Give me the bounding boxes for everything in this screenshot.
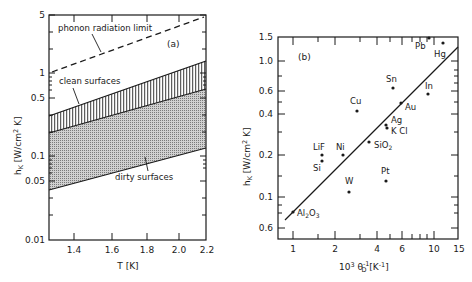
point-ni xyxy=(341,153,344,156)
y-axis-label-b: hK [W/cm2 K] xyxy=(241,128,254,186)
y-axis-label-a: hK [W/cm2 K] xyxy=(12,117,25,175)
panel-label-b: (b) xyxy=(298,52,311,62)
y-tick-label: 0.5 xyxy=(31,93,45,103)
panel-b: 1.5 1.0 0.6 0.4 0.2 0.1 0.6 1 2 4 6 10 1… xyxy=(241,32,465,274)
point-hg xyxy=(441,41,444,44)
panel-label-a: (a) xyxy=(167,39,180,49)
point-label-sio2: SiO2 xyxy=(374,140,392,151)
y-tick-label: 0.4 xyxy=(259,109,274,119)
point-label-al2o3: Al2O3 xyxy=(297,208,320,219)
x-tick-label: 15 xyxy=(453,244,464,254)
phonon-limit-annotation: phonon radiation limit xyxy=(58,23,153,33)
point-label-ni: Ni xyxy=(336,142,345,152)
x-axis-label-a: T [K] xyxy=(116,261,138,271)
y-tick-label: 1 xyxy=(39,68,45,78)
point-pb xyxy=(427,36,430,39)
point-label-ag: Ag xyxy=(391,115,402,125)
point-label-hg: Hg xyxy=(434,49,446,59)
point-label-sn: Sn xyxy=(386,74,397,84)
panel-a: 5 1 0.5 0.1 0.05 0.01 1.4 1.6 1.8 2.0 2.… xyxy=(12,10,214,271)
data-points xyxy=(291,36,444,213)
y-tick-label: 5 xyxy=(39,10,45,20)
y-tick-label: 0.2 xyxy=(259,150,273,160)
x-tick-label: 10 xyxy=(428,244,440,254)
point-pt xyxy=(384,179,387,182)
fit-line xyxy=(285,47,458,220)
x-tick-label: 6 xyxy=(399,244,405,254)
y-tick-label: 0.6 xyxy=(259,223,274,233)
point-label-pt: Pt xyxy=(381,166,390,176)
x-tick-label: 2 xyxy=(332,244,338,254)
x-tick-label: 1 xyxy=(290,244,296,254)
y-tick-label: 0.6 xyxy=(259,86,274,96)
y-tick-label: 0.1 xyxy=(31,151,45,161)
point-w xyxy=(347,190,350,193)
dirty-surfaces-annotation: dirty surfaces xyxy=(115,172,174,182)
x-tick-label: 1.6 xyxy=(105,245,120,255)
x-tick-label: 1.4 xyxy=(67,245,82,255)
point-in xyxy=(426,92,429,95)
point-label-cu: Cu xyxy=(350,96,361,106)
x-tick-label: 1.8 xyxy=(140,245,155,255)
clean-arrow xyxy=(73,88,79,104)
point-lif xyxy=(320,153,323,156)
phonon-arrow xyxy=(92,34,101,52)
point-label-si: Si xyxy=(313,163,321,173)
y-tick-label: 1.0 xyxy=(259,56,274,66)
x-tick-label: 2.2 xyxy=(200,245,214,255)
point-label-pb: Pb xyxy=(415,41,426,51)
point-cu xyxy=(355,109,358,112)
point-label-au: Au xyxy=(405,102,416,112)
point-label-in: In xyxy=(425,81,433,91)
x-axis-label-b: 103 θ-1D [K-1] xyxy=(339,260,389,274)
y-tick-label: 0.05 xyxy=(25,176,45,186)
figure: 5 1 0.5 0.1 0.05 0.01 1.4 1.6 1.8 2.0 2.… xyxy=(0,0,472,282)
x-tick-label: 4 xyxy=(374,244,380,254)
clean-surfaces-annotation: clean surfaces xyxy=(59,76,121,86)
point-label-kcl: K Cl xyxy=(391,126,408,136)
point-ag xyxy=(384,123,387,126)
point-label-w: W xyxy=(345,176,354,186)
y-tick-label: 1.5 xyxy=(259,32,273,42)
point-sn xyxy=(391,86,394,89)
y-tick-label: 0.1 xyxy=(259,192,273,202)
point-kcl xyxy=(385,126,388,129)
point-sio2 xyxy=(367,140,370,143)
x-tick-label: 2.0 xyxy=(172,245,187,255)
point-au xyxy=(399,101,402,104)
point-al2o3 xyxy=(291,210,294,213)
point-label-lif: LiF xyxy=(313,142,325,152)
point-si xyxy=(320,159,323,162)
y-tick-label: 0.01 xyxy=(25,235,45,245)
